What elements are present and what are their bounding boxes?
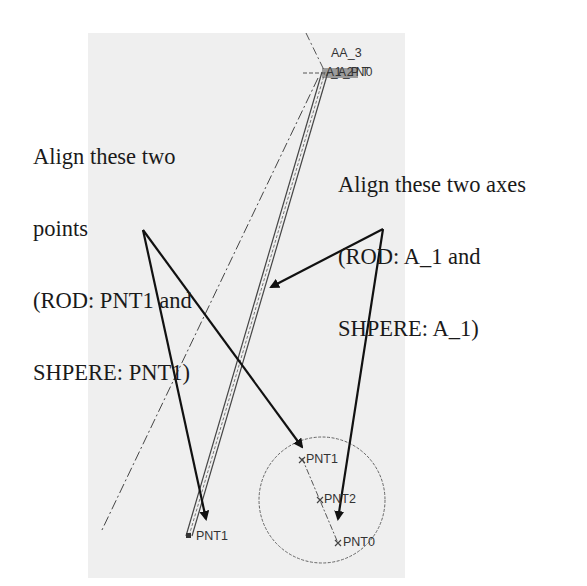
diagram-canvas: AA_3 A_1 A_2 PNT0 PNT1 PNT1 PNT2 PNT0 Al… (0, 0, 587, 586)
callout-axes-line: Align these two axes (338, 173, 526, 197)
label-rod-pnt1: PNT1 (196, 529, 228, 543)
callout-align-points: Align these two points (ROD: PNT1 and SH… (33, 97, 192, 433)
top-axis-line (306, 33, 324, 70)
label-aa3: AA_3 (331, 46, 362, 60)
label-top-cluster: A_1 A_2 PNT0 (326, 65, 369, 79)
callout-points-line: SHPERE: PNT1) (33, 361, 192, 385)
callout-align-axes: Align these two axes (ROD: A_1 and SHPER… (338, 125, 526, 389)
label-sphere-pnt1: PNT1 (306, 452, 338, 466)
callout-points-line: (ROD: PNT1 and (33, 289, 192, 313)
callout-axes-line: SHPERE: A_1) (338, 317, 526, 341)
callout-points-line: points (33, 217, 192, 241)
label-sphere-pnt2: PNT2 (324, 492, 356, 506)
label-sphere-pnt0: PNT0 (343, 535, 375, 549)
rod-end-marker (186, 533, 191, 538)
rod (186, 72, 328, 536)
callout-points-line: Align these two (33, 145, 192, 169)
callout-axes-line: (ROD: A_1 and (338, 245, 526, 269)
